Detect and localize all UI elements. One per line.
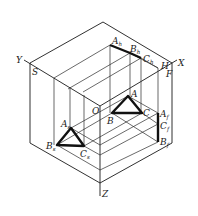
label-c: C — [143, 108, 150, 118]
label-c-f: Cf — [160, 121, 170, 133]
y-axis-label: Y — [16, 55, 23, 65]
label-a-f: Af — [159, 109, 170, 121]
label-b-h: Bh — [129, 44, 141, 55]
label-c-h: Ch — [143, 54, 154, 65]
side-plane-label: S — [32, 67, 38, 77]
origin-label: O — [92, 106, 100, 116]
projection-diagram: Y X Z O S H F Ah Bh Ch A B C Af Cf Bf As… — [0, 0, 198, 216]
label-a: A — [130, 89, 138, 99]
frontal-plane-label: F — [165, 69, 173, 79]
label-a-h: Ah — [111, 36, 123, 47]
label-a-s: As — [60, 119, 71, 130]
label-b: B — [106, 116, 114, 126]
x-axis-label: X — [177, 58, 185, 68]
label-c-s: Cs — [80, 149, 90, 160]
z-axis-label: Z — [101, 189, 109, 199]
cube-top-left-edge — [30, 22, 172, 63]
triangle-abc — [112, 96, 142, 113]
